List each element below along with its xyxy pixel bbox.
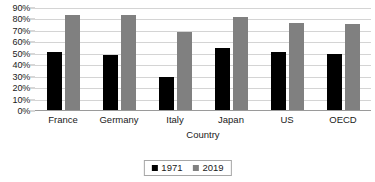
chart-legend: 19712019 bbox=[143, 160, 231, 176]
plot-wrapper: 90%80%70%60%50%40%30%20%10%0% FranceGerm… bbox=[0, 0, 375, 134]
legend-label: 1971 bbox=[161, 163, 182, 173]
bar-japan-2019 bbox=[233, 17, 248, 110]
bar-oecd-1971 bbox=[327, 54, 342, 110]
legend-swatch-icon bbox=[193, 165, 199, 171]
bar-group bbox=[315, 8, 371, 110]
bar-chart: 90%80%70%60%50%40%30%20%10%0% FranceGerm… bbox=[0, 0, 375, 182]
bar-group bbox=[203, 8, 259, 110]
category-label-row: FranceGermanyItalyJapanUSOECD bbox=[35, 113, 371, 127]
y-axis-tick-label: 90% bbox=[13, 4, 30, 13]
x-axis-line bbox=[35, 110, 371, 111]
legend-label: 2019 bbox=[203, 163, 224, 173]
legend-item-1971[interactable]: 1971 bbox=[151, 163, 182, 173]
bar-japan-1971 bbox=[215, 48, 230, 110]
bar-germany-1971 bbox=[103, 55, 118, 110]
bar-group bbox=[91, 8, 147, 110]
y-axis-tick-label: 20% bbox=[13, 84, 30, 93]
y-axis-tick-label: 50% bbox=[13, 49, 30, 58]
y-axis-tick-label: 80% bbox=[13, 15, 30, 24]
x-axis-category-label: US bbox=[259, 113, 315, 127]
y-axis: 90%80%70%60%50%40%30%20%10%0% bbox=[0, 0, 34, 134]
y-axis-tick-label: 70% bbox=[13, 26, 30, 35]
bar-us-2019 bbox=[289, 23, 304, 110]
legend-item-2019[interactable]: 2019 bbox=[193, 163, 224, 173]
x-axis-category-label: Italy bbox=[147, 113, 203, 127]
y-axis-tick-label: 0% bbox=[17, 107, 30, 116]
bar-us-1971 bbox=[271, 52, 286, 110]
y-axis-tick-label: 60% bbox=[13, 38, 30, 47]
bar-italy-1971 bbox=[159, 77, 174, 110]
bar-france-2019 bbox=[65, 15, 80, 110]
y-axis-tick-label: 10% bbox=[13, 95, 30, 104]
x-axis-category-label: France bbox=[35, 113, 91, 127]
y-axis-tick-label: 40% bbox=[13, 61, 30, 70]
bar-germany-2019 bbox=[121, 15, 136, 110]
bar-group bbox=[259, 8, 315, 110]
bar-france-1971 bbox=[47, 52, 62, 110]
x-axis-title: Country bbox=[35, 129, 371, 141]
bar-groups bbox=[35, 8, 371, 110]
legend-swatch-icon bbox=[151, 165, 157, 171]
bar-oecd-2019 bbox=[345, 24, 360, 110]
x-axis-category-label: OECD bbox=[315, 113, 371, 127]
bar-group bbox=[35, 8, 91, 110]
bar-group bbox=[147, 8, 203, 110]
bar-italy-2019 bbox=[177, 32, 192, 110]
x-axis-category-label: Germany bbox=[91, 113, 147, 127]
y-axis-tick-label: 30% bbox=[13, 72, 30, 81]
plot-area bbox=[35, 8, 371, 111]
x-axis-category-label: Japan bbox=[203, 113, 259, 127]
